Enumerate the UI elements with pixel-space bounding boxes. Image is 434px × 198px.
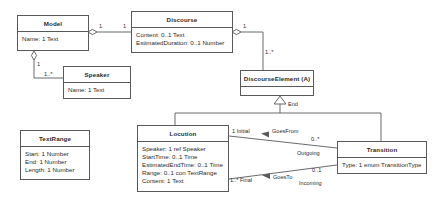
label-discourse-de-source: 1 xyxy=(243,23,246,29)
class-attribute: Content: 0..1 Text xyxy=(136,31,228,39)
label-generalization-role: End xyxy=(288,101,298,107)
edge-transition-generalization xyxy=(280,113,381,141)
class-attribute: Name: 1 Text xyxy=(68,86,126,94)
class-attribute: Content: 1 Text xyxy=(142,177,224,185)
class-box-speaker[interactable]: Speaker Name: 1 Text xyxy=(63,66,131,99)
class-attribute: Start: 1 Number xyxy=(25,150,85,158)
class-attribute: StartTime: 0..1 Time xyxy=(142,153,224,161)
class-name-text-range: TextRange xyxy=(21,131,89,146)
label-goesto-source: 1..* Final xyxy=(230,177,252,183)
label-goesfrom-target: 0..* xyxy=(311,136,319,142)
class-attribute: EstimatedDuration: 0..1 Number xyxy=(136,39,228,47)
label-model-speaker-target: 1..* xyxy=(44,71,52,77)
class-attributes-speaker: Name: 1 Text xyxy=(64,82,130,97)
class-box-transition[interactable]: Transition Type: 1 enum TransitionType xyxy=(337,141,427,174)
class-attribute: End: 1 Number xyxy=(25,158,85,166)
class-attribute: Name: 1 Text xyxy=(22,35,84,43)
label-discourse-de-target: 1..* xyxy=(265,49,273,55)
aggregation-diamond-model-speaker xyxy=(31,51,36,60)
class-box-locution[interactable]: Locution Speaker: 1 ref Speaker StartTim… xyxy=(137,125,229,192)
label-model-discourse-source: 1 xyxy=(99,23,102,29)
aggregation-diamond-model-discourse xyxy=(88,29,97,34)
label-model-discourse-target: 1 xyxy=(123,23,126,29)
label-goesfrom-name: GoesFrom xyxy=(272,128,298,134)
goesfrom-direction-arrow xyxy=(261,132,269,138)
class-name-discourse-element: DiscourseElement (A) xyxy=(241,71,313,86)
class-box-discourse-element[interactable]: DiscourseElement (A) xyxy=(240,70,314,96)
class-attributes-discourse-element xyxy=(241,86,313,100)
class-attributes-locution: Speaker: 1 ref Speaker StartTime: 0..1 T… xyxy=(138,141,228,188)
label-goesto-role: Incoming xyxy=(299,180,322,186)
class-attribute: Range: 0..1 con TextRange xyxy=(142,169,224,177)
class-attributes-model: Name: 1 Text xyxy=(18,31,88,46)
label-goesto-target: 0..1 xyxy=(312,167,321,173)
edge-goesfrom xyxy=(229,136,337,148)
class-name-transition: Transition xyxy=(338,142,426,157)
class-name-speaker: Speaker xyxy=(64,67,130,82)
class-attributes-text-range: Start: 1 Number End: 1 Number Length: 1 … xyxy=(21,146,89,177)
class-box-discourse[interactable]: Discourse Content: 0..1 Text EstimatedDu… xyxy=(131,11,233,53)
edge-locution-generalization xyxy=(175,104,280,125)
class-box-model[interactable]: Model Name: 1 Text xyxy=(17,15,89,51)
aggregation-diamond-discourse-element xyxy=(232,29,241,34)
class-attribute: Length: 1 Number xyxy=(25,166,85,174)
class-name-model: Model xyxy=(18,16,88,31)
class-name-discourse: Discourse xyxy=(132,12,232,27)
class-box-text-range[interactable]: TextRange Start: 1 Number End: 1 Number … xyxy=(20,130,90,180)
label-goesfrom-role: Outgoing xyxy=(297,150,320,156)
class-attribute: EstimatedEndTime: 0..1 Time xyxy=(142,161,224,169)
uml-class-diagram: Model Name: 1 Text Discourse Content: 0.… xyxy=(0,0,434,198)
class-attribute: Type: 1 enum TransitionType xyxy=(342,161,422,169)
class-attributes-discourse: Content: 0..1 Text EstimatedDuration: 0.… xyxy=(132,27,232,50)
edge-discourse-discourseelement xyxy=(241,32,263,70)
class-name-locution: Locution xyxy=(138,126,228,141)
label-goesfrom-source: 1 Initial xyxy=(232,128,250,134)
label-model-speaker-source: 1 xyxy=(37,61,40,67)
label-goesto-name: GoesTo xyxy=(273,174,292,180)
class-attributes-transition: Type: 1 enum TransitionType xyxy=(338,157,426,172)
class-attribute: Speaker: 1 ref Speaker xyxy=(142,145,224,153)
